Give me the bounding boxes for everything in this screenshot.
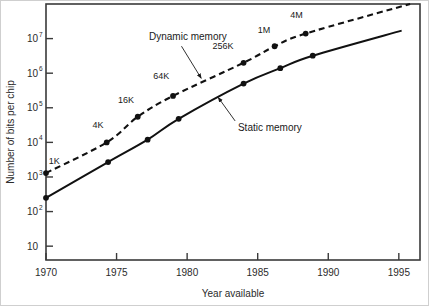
y-tick-label-exponent: 3 [39, 169, 43, 176]
data-point-marker [241, 60, 247, 66]
y-tick-label-exponent: 4 [39, 134, 43, 141]
y-tick-label-base: 10 [27, 241, 39, 252]
data-point-marker [104, 139, 110, 145]
data-point-marker [303, 31, 309, 37]
y-tick-label-base: 10 [27, 171, 39, 182]
data-point-marker [277, 65, 283, 71]
data-point-marker [135, 114, 141, 120]
y-tick-label-base: 10 [27, 137, 39, 148]
capacity-label-64k: 64K [153, 71, 169, 81]
y-tick-label-exponent: 6 [39, 65, 43, 72]
data-point-marker [145, 137, 151, 143]
x-tick-label: 1995 [388, 267, 411, 278]
y-tick-label-base: 10 [27, 206, 39, 217]
y-tick-label-exponent: 2 [39, 204, 43, 211]
y-tick-label-exponent: 5 [39, 100, 43, 107]
x-tick-label: 1985 [247, 267, 270, 278]
x-axis-title: Year available [202, 288, 265, 299]
x-tick-label: 1970 [35, 267, 58, 278]
figure-container: 10102103104105106107 1970197519801985199… [0, 0, 429, 306]
capacity-label-4k: 4K [93, 120, 104, 130]
data-point-marker [241, 81, 247, 87]
data-point-marker [105, 159, 111, 165]
data-point-marker [43, 170, 49, 176]
data-point-marker [43, 195, 49, 201]
x-tick-label: 1980 [176, 267, 199, 278]
x-tick-label: 1990 [317, 267, 340, 278]
y-axis-title: Number of bits per chip [5, 80, 16, 184]
capacity-label-1m: 1M [258, 25, 271, 35]
data-point-marker [310, 53, 316, 59]
y-tick-label-base: 10 [27, 68, 39, 79]
x-tick-label: 1975 [105, 267, 128, 278]
y-tick-label: 10 [27, 241, 39, 252]
data-point-marker [272, 43, 278, 49]
capacity-label-256k: 256K [213, 41, 234, 51]
memory-density-chart: 10102103104105106107 1970197519801985199… [0, 0, 429, 306]
series-label-dynamic-memory: Dynamic memory [149, 31, 227, 42]
capacity-label-4m: 4M [290, 10, 303, 20]
y-tick-label-exponent: 7 [39, 31, 43, 38]
y-tick-label-base: 10 [27, 33, 39, 44]
series-label-static-memory: Static memory [238, 122, 302, 133]
y-tick-label-base: 10 [27, 102, 39, 113]
capacity-label-16k: 16K [118, 95, 134, 105]
capacity-label-1k: 1K [49, 156, 60, 166]
data-point-marker [170, 93, 176, 99]
data-point-marker [176, 116, 182, 122]
